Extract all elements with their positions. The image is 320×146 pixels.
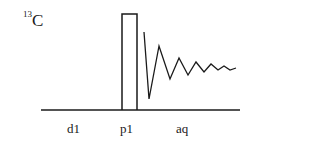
label-d1: d1 [67, 122, 80, 135]
pulse-p1 [122, 14, 137, 110]
fid-signal [144, 32, 236, 99]
label-p1: p1 [120, 122, 133, 135]
label-aq: aq [176, 122, 188, 135]
